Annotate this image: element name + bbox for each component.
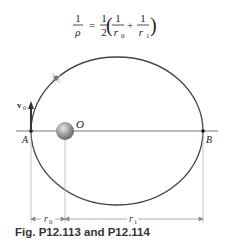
velocity-label: v xyxy=(17,100,22,110)
dimension-r0 xyxy=(31,217,65,221)
formula: 1 ρ = 1 2 ( 1 r 0 + 1 r 1 ) xyxy=(73,12,157,40)
svg-text:1: 1 xyxy=(140,12,146,24)
svg-text:ρ: ρ xyxy=(74,26,80,38)
svg-text:): ) xyxy=(150,14,157,37)
point-b-label: B xyxy=(206,134,212,145)
svg-text:0: 0 xyxy=(49,218,52,225)
svg-text:1: 1 xyxy=(75,12,81,24)
svg-text:1: 1 xyxy=(134,218,137,225)
figure-caption: Fig. P12.113 and P12.114 xyxy=(15,226,150,238)
svg-text:(: ( xyxy=(106,14,113,37)
svg-text:+: + xyxy=(127,19,133,31)
svg-text:r: r xyxy=(139,26,144,38)
orbit-diagram: 1 ρ = 1 2 ( 1 r 0 + 1 r 1 ) r 0 r xyxy=(0,0,231,251)
r1-label: r xyxy=(129,213,133,224)
planet-icon xyxy=(56,122,74,140)
point-b xyxy=(201,129,205,133)
svg-text:0: 0 xyxy=(23,105,26,111)
point-a-label: A xyxy=(21,134,29,145)
r0-label: r xyxy=(44,213,48,224)
svg-text:=: = xyxy=(89,19,95,31)
svg-text:r: r xyxy=(114,26,119,38)
svg-text:0: 0 xyxy=(121,32,125,40)
svg-text:1: 1 xyxy=(115,12,121,24)
center-label: O xyxy=(76,118,84,130)
